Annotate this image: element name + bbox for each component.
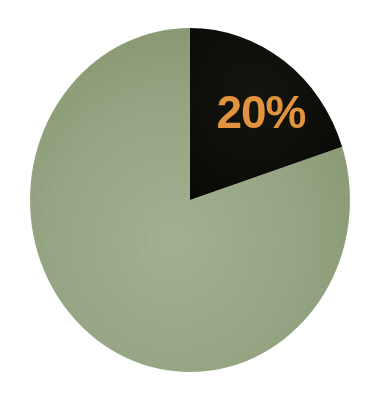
pie-chart-figure: 20% (0, 0, 378, 396)
slice-percentage-label: 20% (216, 86, 305, 138)
pie-chart-svg: 20% (0, 0, 378, 396)
